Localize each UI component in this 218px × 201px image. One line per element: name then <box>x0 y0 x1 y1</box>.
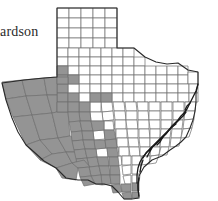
distribution-map-figure: ardson <box>0 0 218 201</box>
texas-county-map <box>0 0 218 201</box>
